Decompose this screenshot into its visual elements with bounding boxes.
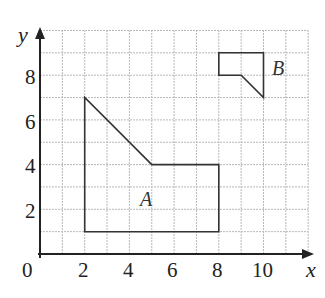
shape-a-label: A: [138, 188, 153, 210]
x-tick-8: 8: [212, 258, 223, 282]
x-tick-2: 2: [78, 258, 89, 282]
coordinate-grid-diagram: y x 0 2 4 6 8 10 2 4 6 8 A B: [0, 0, 325, 298]
origin-label: 0: [22, 258, 33, 282]
x-tick-6: 6: [167, 258, 178, 282]
y-axis-label: y: [16, 22, 28, 47]
y-tick-2: 2: [25, 199, 36, 223]
x-axis-label: x: [305, 257, 316, 282]
shape-b-label: B: [272, 57, 284, 79]
x-tick-10: 10: [252, 258, 273, 282]
y-tick-8: 8: [25, 65, 36, 89]
grid: [40, 31, 308, 255]
y-axis-arrow-icon: [35, 27, 45, 39]
y-tick-4: 4: [25, 154, 36, 178]
x-tick-4: 4: [123, 258, 134, 282]
y-tick-6: 6: [25, 110, 36, 134]
